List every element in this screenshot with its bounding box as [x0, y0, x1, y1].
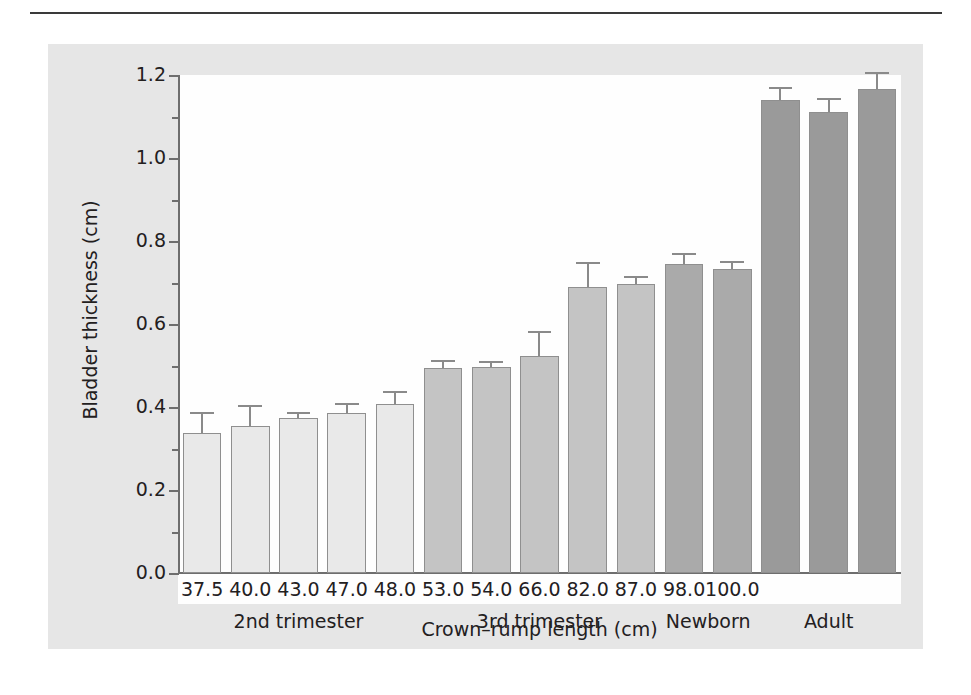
bar-slot [520, 75, 559, 573]
bar[interactable] [424, 368, 463, 573]
bar[interactable] [327, 413, 366, 573]
error-bar-stem [538, 331, 540, 356]
error-bar-cap [720, 261, 744, 263]
bar[interactable] [665, 264, 704, 573]
bar[interactable] [858, 89, 897, 573]
y-axis-tick-label: 0.4 [108, 395, 166, 417]
y-axis-tick-label: 0.0 [108, 561, 166, 583]
error-bar-cap [528, 331, 552, 333]
page-top-rule [30, 12, 942, 14]
y-axis-tick-label: 0.6 [108, 312, 166, 334]
bar[interactable] [713, 269, 752, 573]
error-bar-stem [201, 412, 203, 433]
error-bar-stem [828, 98, 830, 113]
bar[interactable] [761, 100, 800, 573]
error-bar-cap [287, 412, 311, 414]
error-bar-stem [587, 262, 589, 287]
y-axis-title: Bladder thickness (cm) [79, 100, 101, 520]
error-bar-cap [672, 253, 696, 255]
y-axis-tick-major [169, 573, 179, 575]
y-axis-tick-labels: 0.00.20.40.60.81.01.2 [48, 44, 166, 604]
bar-slot [472, 75, 511, 573]
error-bar-cap [865, 72, 889, 74]
error-bar-cap [335, 403, 359, 405]
bar-slot [231, 75, 270, 573]
y-axis-tick-label: 1.0 [108, 146, 166, 168]
error-bar-cap [383, 391, 407, 393]
chart-figure: 0.00.20.40.60.81.01.2 Bladder thickness … [48, 44, 923, 649]
bar-slot [809, 75, 848, 573]
bar-slot [617, 75, 656, 573]
bar[interactable] [279, 418, 318, 573]
error-bar-cap [576, 262, 600, 264]
bar-slot [376, 75, 415, 573]
bar[interactable] [183, 433, 222, 573]
bar-slot [327, 75, 366, 573]
x-axis-title: Crown–rump length (cm) [178, 618, 901, 640]
error-bar-cap [238, 405, 262, 407]
bar-series [178, 75, 901, 573]
error-bar-cap [190, 412, 214, 414]
error-bar-stem [249, 405, 251, 426]
bar[interactable] [376, 404, 415, 573]
bar-slot [183, 75, 222, 573]
error-bar-cap [479, 361, 503, 363]
x-axis-tick-label: 100.0 [702, 578, 762, 600]
bar[interactable] [472, 367, 511, 573]
error-bar-cap [817, 98, 841, 100]
bar[interactable] [568, 287, 607, 573]
y-axis-tick-label: 1.2 [108, 63, 166, 85]
y-axis-tick-label: 0.8 [108, 229, 166, 251]
bar-slot [665, 75, 704, 573]
bar-slot [713, 75, 752, 573]
bar-slot [858, 75, 897, 573]
error-bar-stem [876, 72, 878, 89]
bar-slot [761, 75, 800, 573]
bar-slot [568, 75, 607, 573]
bar-slot [424, 75, 463, 573]
error-bar-cap [769, 87, 793, 89]
error-bar-cap [624, 276, 648, 278]
y-axis-tick-label: 0.2 [108, 478, 166, 500]
bar-slot [279, 75, 318, 573]
bar[interactable] [520, 356, 559, 573]
bar[interactable] [231, 426, 270, 573]
bar[interactable] [809, 112, 848, 573]
figure-page: 0.00.20.40.60.81.01.2 Bladder thickness … [0, 0, 971, 695]
x-axis-tick-labels: 37.540.043.047.048.053.054.066.082.087.0… [178, 578, 901, 608]
bar[interactable] [617, 284, 656, 573]
error-bar-cap [431, 360, 455, 362]
